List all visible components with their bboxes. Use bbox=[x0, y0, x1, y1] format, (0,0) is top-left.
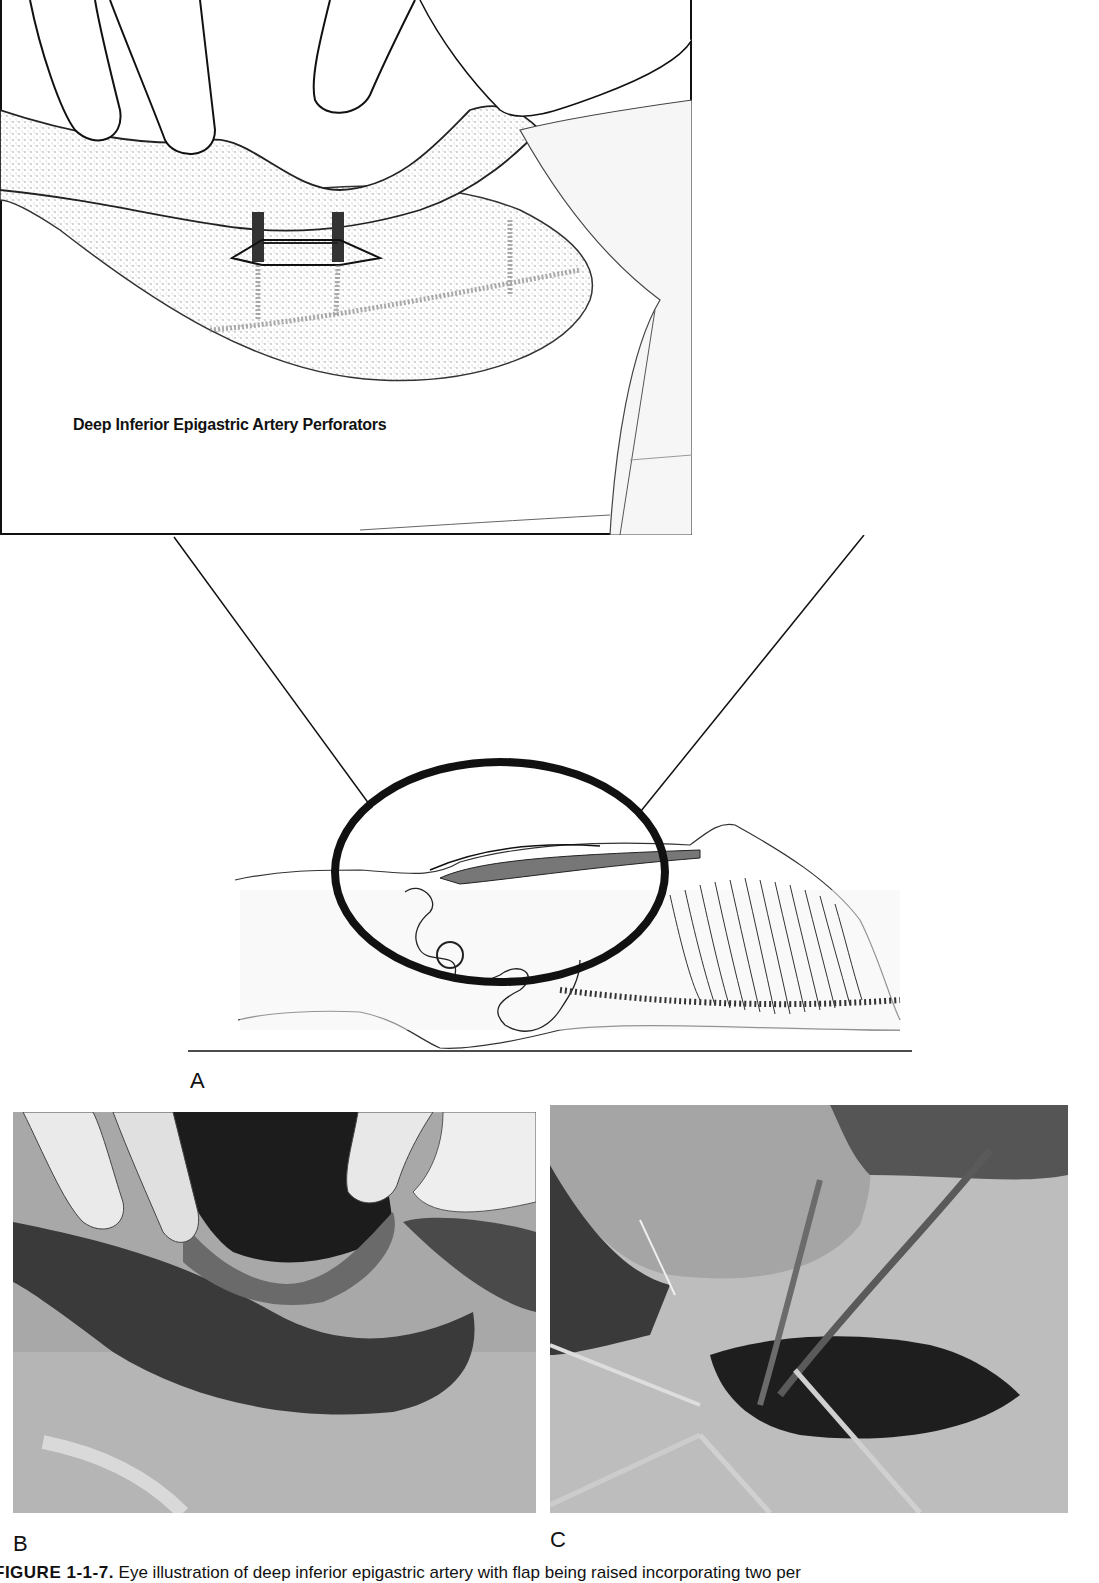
panel-b-photograph bbox=[13, 1112, 536, 1513]
perforators-annotation: Deep Inferior Epigastric Artery Perforat… bbox=[73, 416, 387, 434]
flap-raising-photo bbox=[13, 1112, 536, 1513]
flap-drawing bbox=[0, 0, 692, 535]
panel-a-overview-illustration bbox=[0, 535, 1099, 1065]
figure-caption: FIGURE 1-1-7. Eye illustration of deep i… bbox=[0, 1563, 801, 1583]
panel-label-c: C bbox=[550, 1527, 566, 1553]
panel-a-inset-illustration: Deep Inferior Epigastric Artery Perforat… bbox=[0, 0, 692, 535]
perforator-dissection-photo bbox=[550, 1105, 1068, 1513]
figure-number: FIGURE 1-1-7. bbox=[0, 1563, 114, 1582]
panel-label-a: A bbox=[190, 1068, 205, 1094]
caption-text: Eye illustration of deep inferior epigas… bbox=[119, 1563, 801, 1582]
panel-label-b: B bbox=[13, 1531, 28, 1557]
body-side-view-drawing bbox=[0, 535, 1099, 1065]
panel-c-photograph bbox=[550, 1105, 1068, 1513]
connector-line-left bbox=[174, 537, 372, 808]
connector-line-right bbox=[641, 535, 864, 811]
